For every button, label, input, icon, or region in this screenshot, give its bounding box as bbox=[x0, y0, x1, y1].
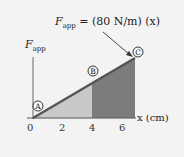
x-tick-6: 6 bbox=[119, 122, 125, 133]
pointer-arrow-line bbox=[103, 32, 129, 54]
force-vs-displacement-diagram: Fapp = (80 N/m) (x) Fapp x (cm) 0 2 4 6 … bbox=[0, 0, 184, 157]
point-b-marker: B bbox=[88, 66, 98, 76]
svg-text:A: A bbox=[34, 102, 41, 111]
y-axis-label: Fapp bbox=[24, 38, 46, 53]
equation-label: Fapp = (80 N/m) (x) bbox=[54, 15, 160, 30]
svg-text:C: C bbox=[135, 48, 141, 57]
svg-text:B: B bbox=[90, 67, 96, 76]
x-tick-4: 4 bbox=[89, 122, 95, 133]
x-axis-label: x (cm) bbox=[137, 112, 169, 123]
x-tick-2: 2 bbox=[59, 122, 65, 133]
dark-shaded-region bbox=[92, 58, 135, 118]
x-tick-0: 0 bbox=[27, 122, 33, 133]
point-c-marker: C bbox=[133, 47, 143, 57]
point-a-marker: A bbox=[33, 101, 43, 111]
